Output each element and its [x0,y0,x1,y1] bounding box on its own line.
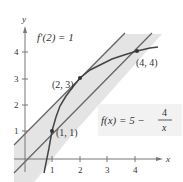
derivative-label: f′(2) = 1 [37,31,74,44]
point-label-1-1: (1, 1) [56,127,78,139]
x-tick-label-2: 2 [78,165,83,175]
chart: y x 1 2 3 4 1 2 3 4 f′(2) = 1 (1, 1) (2,… [0,0,183,182]
y-tick-label-4: 4 [14,47,19,57]
x-axis-arrow [156,157,163,161]
y-tick-label-3: 3 [14,74,19,84]
y-tick-label-1: 1 [14,126,19,136]
y-axis-arrow [23,26,27,33]
y-axis-label: y [21,14,26,24]
point-4-4 [135,49,139,53]
function-label-numerator: 4 [162,107,167,118]
x-axis-label: x [165,154,170,164]
point-label-2-3: (2, 3) [52,79,74,91]
function-label-denominator: x [161,122,167,133]
function-label: f(x) = 5 − [101,114,145,127]
x-tick-label-1: 1 [50,165,55,175]
point-1-1 [50,129,54,133]
point-label-4-4: (4, 4) [136,57,158,69]
x-tick-label-4: 4 [133,165,138,175]
y-tick-label-2: 2 [14,100,19,110]
x-tick-label-3: 3 [105,165,110,175]
point-2-3 [78,76,82,80]
lower-line [14,33,152,173]
